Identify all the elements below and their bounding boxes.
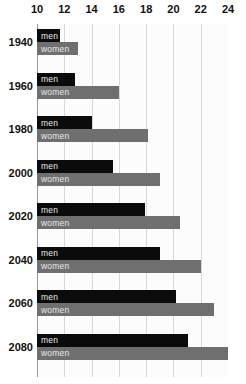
bar-series-label-women: women (37, 174, 69, 184)
bar-women-1960: women (37, 86, 119, 99)
x-tick-label-20: 20 (167, 3, 179, 15)
bar-men-2000: men (37, 160, 113, 173)
bar-men-2040: men (37, 247, 160, 260)
x-tick-label-22: 22 (195, 3, 207, 15)
year-label-2020: 2020 (0, 210, 33, 222)
bar-men-1940: men (37, 29, 60, 42)
bar-series-label-men: men (37, 248, 58, 258)
bar-men-1980: men (37, 116, 92, 129)
bar-men-2060: men (37, 290, 176, 303)
bar-series-label-women: women (37, 44, 69, 54)
year-label-1960: 1960 (0, 80, 33, 92)
gridline-16 (119, 24, 120, 377)
x-tick-label-18: 18 (140, 3, 152, 15)
bar-women-2020: women (37, 216, 180, 229)
x-tick-label-12: 12 (58, 3, 70, 15)
bar-men-1960: men (37, 73, 75, 86)
bar-women-1980: women (37, 129, 148, 142)
year-label-2000: 2000 (0, 167, 33, 179)
x-tick-label-14: 14 (85, 3, 97, 15)
year-label-2040: 2040 (0, 254, 33, 266)
bar-women-2040: women (37, 260, 201, 273)
year-label-2060: 2060 (0, 297, 33, 309)
bar-series-label-women: women (37, 131, 69, 141)
x-tick-label-10: 10 (31, 3, 43, 15)
x-tick-label-24: 24 (222, 3, 234, 15)
bar-series-label-men: men (37, 118, 58, 128)
bar-series-label-women: women (37, 87, 69, 97)
year-label-1940: 1940 (0, 36, 33, 48)
bar-series-label-women: women (37, 261, 69, 271)
year-label-2080: 2080 (0, 341, 33, 353)
bar-series-label-women: women (37, 348, 69, 358)
bar-series-label-men: men (37, 161, 58, 171)
gridline-22 (201, 24, 202, 377)
bar-chart: menwomenmenwomenmenwomenmenwomenmenwomen… (0, 0, 246, 384)
bar-women-2080: women (37, 347, 228, 360)
plot-area: menwomenmenwomenmenwomenmenwomenmenwomen… (37, 24, 228, 377)
year-label-1980: 1980 (0, 123, 33, 135)
bar-series-label-women: women (37, 218, 69, 228)
bar-women-1940: women (37, 42, 78, 55)
bar-series-label-men: men (37, 31, 58, 41)
x-tick-label-16: 16 (113, 3, 125, 15)
bar-men-2080: men (37, 334, 188, 347)
bar-women-2000: women (37, 173, 160, 186)
x-axis-tick-labels: 1012141618202224 (0, 0, 246, 24)
bar-series-label-men: men (37, 335, 58, 345)
bar-series-label-men: men (37, 74, 58, 84)
bar-men-2020: men (37, 203, 145, 216)
gridline-18 (146, 24, 147, 377)
gridline-20 (173, 24, 174, 377)
bar-series-label-men: men (37, 205, 58, 215)
bar-series-label-men: men (37, 292, 58, 302)
gridline-14 (92, 24, 93, 377)
bar-women-2060: women (37, 303, 214, 316)
bar-series-label-women: women (37, 305, 69, 315)
